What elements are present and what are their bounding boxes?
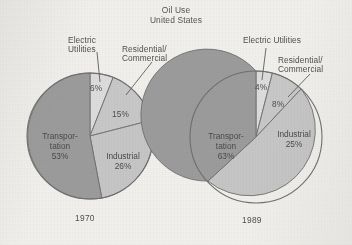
label-1989-transportation-line2: tation: [196, 142, 256, 151]
value-1970-residential-commercial: 15%: [112, 109, 129, 119]
callout-1989-electric-utilities-line1: Electric Utilities: [243, 36, 301, 46]
label-1970-transportation-line1: Transpor-: [30, 132, 90, 141]
callout-1970-electric-utilities-line2: Utilities: [68, 45, 96, 55]
year-label-1970: 1970: [75, 213, 95, 223]
value-1989-residential-commercial: 8%: [272, 99, 284, 109]
value-1989-transportation: 63%: [196, 152, 256, 161]
value-1989-industrial: 25%: [266, 140, 322, 149]
value-1989-electric-utilities: 4%: [255, 82, 267, 92]
year-label-1989: 1989: [242, 215, 262, 225]
label-1970-industrial: Industrial: [95, 152, 151, 161]
label-1989-transportation-line1: Transpor-: [196, 132, 256, 141]
label-1989-industrial: Industrial: [266, 130, 322, 139]
callout-1970-residential-commercial-line2: Commercial: [122, 54, 167, 64]
oil-use-figure: Oil Use United States: [0, 0, 352, 245]
value-1970-industrial: 26%: [95, 162, 151, 171]
label-1970-transportation-line2: tation: [30, 142, 90, 151]
callout-1989-residential-commercial-line2: Commercial: [278, 65, 323, 75]
value-1970-electric-utilities: 6%: [90, 83, 102, 93]
value-1970-transportation: 53%: [30, 152, 90, 161]
